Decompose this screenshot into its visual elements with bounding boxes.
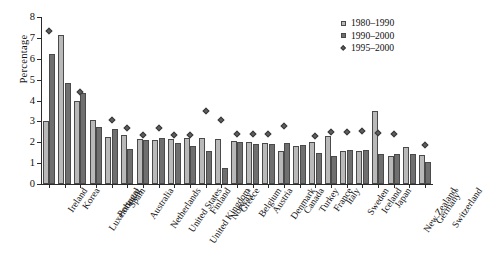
bar-1980-1990[interactable] [356,151,362,184]
bar-1980-1990[interactable] [58,35,64,184]
bar-group[interactable] [135,17,151,184]
bar-1980-1990[interactable] [105,137,111,184]
legend-item[interactable]: 1990–2000 [341,30,394,43]
legend-label: 1995–2000 [351,42,394,55]
bar-1990-2000[interactable] [222,168,228,184]
x-axis-labels: IrelandKoreaLuxembourgPortugalSpainAustr… [41,186,433,274]
bar-group[interactable] [245,17,261,184]
bar-1980-1990[interactable] [309,142,315,184]
marker-1995-2000[interactable] [422,142,429,149]
bar-group[interactable] [308,17,324,184]
bar-1980-1990[interactable] [137,139,143,184]
bar-1990-2000[interactable] [316,153,322,184]
bar-group[interactable] [57,17,73,184]
bar-group[interactable] [166,17,182,184]
marker-1995-2000[interactable] [280,122,287,129]
bar-1990-2000[interactable] [378,154,384,184]
bar-group[interactable] [417,17,433,184]
y-axis-tick-label: 3 [30,116,35,127]
bar-1990-2000[interactable] [425,162,431,184]
bar-1990-2000[interactable] [190,146,196,184]
bar-1990-2000[interactable] [284,143,290,184]
marker-1995-2000[interactable] [312,132,319,139]
bar-1990-2000[interactable] [143,140,149,184]
bar-1990-2000[interactable] [159,138,165,184]
bar-group[interactable] [119,17,135,184]
bar-1980-1990[interactable] [293,146,299,184]
bar-1990-2000[interactable] [49,54,55,184]
bar-group[interactable] [72,17,88,184]
bar-1980-1990[interactable] [74,101,80,185]
bar-1980-1990[interactable] [199,138,205,184]
bar-group[interactable] [182,17,198,184]
bar-1980-1990[interactable] [184,138,190,184]
marker-1995-2000[interactable] [202,107,209,114]
marker-1995-2000[interactable] [390,130,397,137]
bar-1980-1990[interactable] [121,135,127,184]
bar-1980-1990[interactable] [340,151,346,184]
bar-1990-2000[interactable] [206,151,212,184]
bar-1990-2000[interactable] [269,144,275,184]
bar-1980-1990[interactable] [388,156,394,184]
bar-group[interactable] [292,17,308,184]
marker-1995-2000[interactable] [171,131,178,138]
bar-1990-2000[interactable] [127,149,133,184]
bar-group[interactable] [323,17,339,184]
marker-1995-2000[interactable] [343,128,350,135]
marker-1995-2000[interactable] [155,124,162,131]
bar-1990-2000[interactable] [112,129,118,184]
square-swatch-icon [341,21,346,26]
bar-group[interactable] [402,17,418,184]
bar-1980-1990[interactable] [168,139,174,184]
marker-1995-2000[interactable] [328,128,335,135]
bar-1990-2000[interactable] [300,145,306,184]
bar-group[interactable] [229,17,245,184]
bar-1980-1990[interactable] [419,155,425,184]
bar-group[interactable] [261,17,277,184]
marker-1995-2000[interactable] [218,117,225,124]
bar-1980-1990[interactable] [43,121,49,184]
marker-1995-2000[interactable] [265,130,272,137]
marker-1995-2000[interactable] [249,130,256,137]
marker-1995-2000[interactable] [359,127,366,134]
bar-group[interactable] [151,17,167,184]
marker-1995-2000[interactable] [233,130,240,137]
bar-1990-2000[interactable] [253,144,259,184]
bar-1990-2000[interactable] [394,154,400,184]
bar-1980-1990[interactable] [152,140,158,184]
bar-1980-1990[interactable] [231,141,237,184]
bar-1980-1990[interactable] [215,139,221,184]
bar-1980-1990[interactable] [372,111,378,184]
y-axis-tick-label: 0 [30,179,35,190]
bar-1980-1990[interactable] [278,151,284,184]
y-axis-tick-label: 6 [30,54,35,65]
bar-group[interactable] [104,17,120,184]
diamond-marker-icon [340,45,346,51]
bar-1990-2000[interactable] [410,154,416,184]
bar-1980-1990[interactable] [90,120,96,184]
legend-item[interactable]: 1995–2000 [341,42,394,55]
marker-1995-2000[interactable] [139,131,146,138]
bar-1980-1990[interactable] [325,136,331,184]
bar-1990-2000[interactable] [80,93,86,184]
x-axis-label: Australia [148,186,176,221]
bar-group[interactable] [198,17,214,184]
bar-group[interactable] [276,17,292,184]
legend-item[interactable]: 1980–1990 [341,17,394,30]
bar-1980-1990[interactable] [403,147,409,184]
bar-1990-2000[interactable] [96,127,102,184]
bar-1990-2000[interactable] [175,143,181,184]
bar-1990-2000[interactable] [237,142,243,184]
marker-1995-2000[interactable] [45,27,52,34]
bar-1990-2000[interactable] [363,150,369,184]
bar-group[interactable] [213,17,229,184]
bar-1980-1990[interactable] [246,142,252,184]
bar-group[interactable] [41,17,57,184]
bar-1990-2000[interactable] [347,150,353,184]
bar-group[interactable] [88,17,104,184]
bar-1980-1990[interactable] [262,143,268,184]
marker-1995-2000[interactable] [124,124,131,131]
bar-1990-2000[interactable] [65,83,71,184]
marker-1995-2000[interactable] [108,117,115,124]
bar-1990-2000[interactable] [331,156,337,184]
